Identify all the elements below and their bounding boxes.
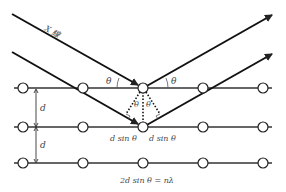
bragg-diagram: d d X 線 θ θ θ θ d sin θ d sin θ 2d sin θ… xyxy=(0,0,286,192)
spacing-marker xyxy=(34,89,38,163)
bragg-equation: 2d sin θ = nλ xyxy=(119,176,174,185)
path-diff-left: d sin θ xyxy=(110,134,137,143)
diffracted-rays xyxy=(145,15,272,126)
angle-label-inner-right: θ xyxy=(146,100,151,109)
angle-label-incident: θ xyxy=(106,76,112,86)
angle-label-diffracted: θ xyxy=(171,76,177,86)
spacing-label-top: d xyxy=(40,103,46,113)
spacing-label-bottom: d xyxy=(40,140,46,150)
angle-label-inner-left: θ xyxy=(134,100,139,109)
incident-rays xyxy=(12,14,138,124)
path-diff-right: d sin θ xyxy=(149,134,176,143)
construction-lines xyxy=(126,92,160,122)
